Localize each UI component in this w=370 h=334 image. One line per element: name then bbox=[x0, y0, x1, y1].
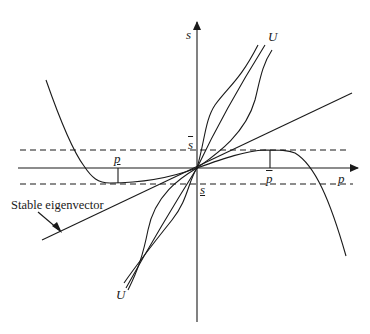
s-upper-label: s bbox=[188, 138, 193, 151]
stable-eigenvector-label: Stable eigenvector bbox=[11, 199, 104, 212]
p-axis-label: p bbox=[338, 172, 345, 185]
s-lower-label: s bbox=[200, 183, 205, 196]
p-lower-label: p bbox=[114, 152, 121, 165]
annotation-arrowhead bbox=[52, 222, 62, 233]
bottom-u-label: U bbox=[116, 288, 125, 301]
right-manifold-curve bbox=[197, 150, 346, 256]
phase-diagram-svg bbox=[0, 0, 370, 334]
p-upper-label: p bbox=[266, 172, 273, 185]
phase-diagram: s p s s p p U U Stable eigenvector bbox=[0, 0, 370, 334]
unstable-trajectory-6 bbox=[128, 168, 197, 290]
s-axis-label: s bbox=[186, 28, 191, 41]
top-u-label: U bbox=[268, 30, 277, 43]
